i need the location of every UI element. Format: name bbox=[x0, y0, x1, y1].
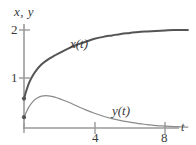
initial-point-y bbox=[22, 115, 26, 119]
curve-y-of-t bbox=[24, 96, 188, 127]
initial-point-x bbox=[22, 97, 26, 101]
curve-label-x: x(t) bbox=[70, 37, 88, 50]
y-tick-label-1: 1 bbox=[11, 71, 18, 84]
y-axis-title: x, y bbox=[14, 5, 34, 18]
x-axis-title: t bbox=[181, 121, 184, 133]
chart-figure: x, y t x(t) y(t) 2 1 4 8 bbox=[0, 0, 196, 145]
plot-canvas bbox=[0, 0, 196, 145]
y-tick-label-2: 2 bbox=[11, 23, 18, 36]
curve-label-y: y(t) bbox=[112, 104, 130, 117]
curve-x-of-t bbox=[24, 30, 188, 99]
x-tick-label-8: 8 bbox=[161, 131, 168, 144]
x-tick-label-4: 4 bbox=[92, 131, 99, 144]
